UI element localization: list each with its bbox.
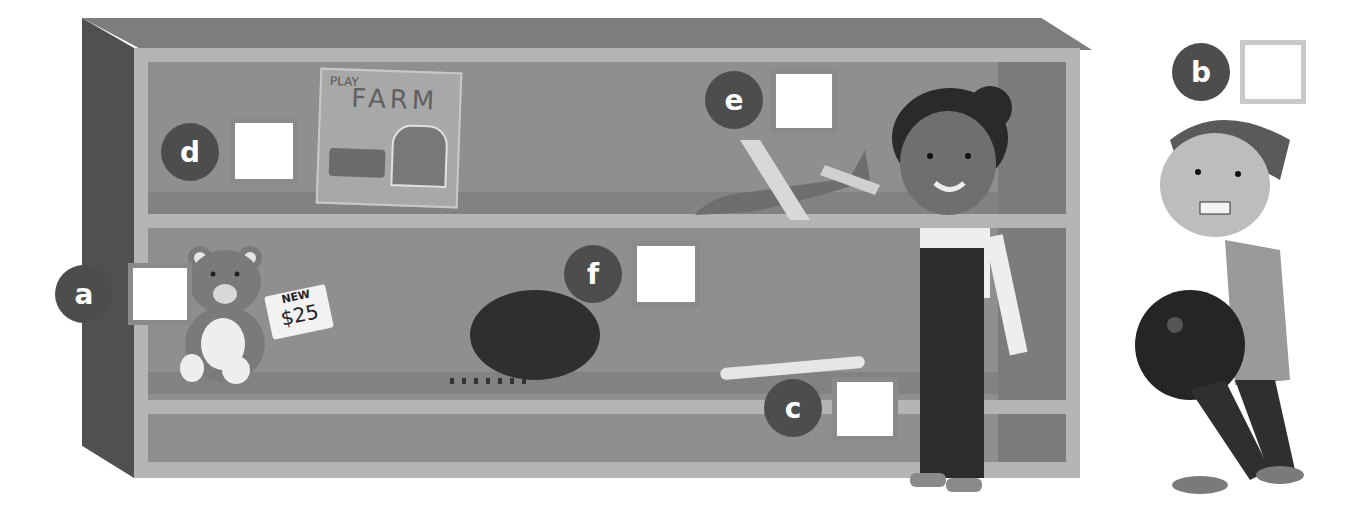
answer-box-f[interactable] — [632, 241, 700, 307]
barn-icon — [390, 124, 448, 188]
label-badge-a: a — [58, 268, 110, 320]
label-letter-e: e — [725, 84, 744, 117]
shelf-side — [82, 18, 134, 478]
answer-box-a[interactable] — [128, 263, 192, 325]
label-badge-f: f — [567, 248, 619, 300]
tractor-icon — [329, 148, 386, 178]
farm-game-box: PLAY FARM — [316, 68, 463, 209]
farm-box-text-farm: FARM — [351, 83, 439, 116]
label-badge-b: b — [1175, 46, 1227, 98]
label-letter-f: f — [587, 258, 599, 291]
label-letter-c: c — [785, 392, 802, 425]
toy-airplane-icon — [690, 140, 900, 250]
label-badge-e: e — [708, 74, 760, 126]
coconut-crumbs — [450, 378, 530, 384]
answer-box-b[interactable] — [1240, 40, 1306, 104]
shelf-top — [82, 18, 1092, 50]
boy-character — [1130, 110, 1310, 510]
answer-box-e[interactable] — [771, 69, 837, 133]
girl-character — [880, 78, 1030, 498]
coconut-icon — [470, 290, 600, 380]
answer-box-d[interactable] — [230, 118, 298, 184]
label-letter-a: a — [75, 278, 94, 311]
label-letter-b: b — [1191, 56, 1211, 89]
label-badge-d: d — [164, 126, 216, 178]
label-badge-c: c — [767, 382, 819, 434]
answer-box-c[interactable] — [832, 377, 898, 441]
label-letter-d: d — [180, 136, 200, 169]
